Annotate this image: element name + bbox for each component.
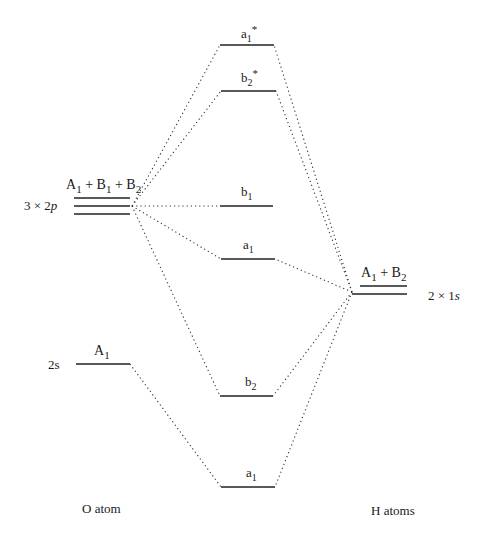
mo-label-a1-low: a1 [246, 466, 257, 483]
h-atoms-title: H atoms [371, 504, 415, 517]
mo-label-b2-star: b2* [241, 68, 258, 88]
h-1s-levels [352, 286, 407, 294]
mo-label-b2: b2 [245, 375, 257, 392]
mo-label-a1-star: a1* [241, 24, 257, 44]
h-correlation-lines [273, 45, 352, 487]
mo-label-b1: b1 [241, 185, 253, 202]
h-1s-label: 2 × 1s [428, 289, 460, 302]
h-symmetry-label: A1 + B2 [361, 266, 406, 283]
o-2s-label: 2s [48, 358, 60, 371]
mo-levels [220, 45, 276, 487]
o-2p-levels [74, 198, 130, 214]
o-2s-symmetry-label: A1 [94, 344, 110, 361]
o-2p-label: 3 × 2p [24, 199, 57, 212]
o-atom-title: O atom [82, 502, 121, 515]
mo-label-a1-mid: a1 [243, 238, 254, 255]
o-2p-symmetry-label: A1 + B1 + B2 [66, 178, 141, 195]
o-correlation-lines [130, 45, 221, 487]
